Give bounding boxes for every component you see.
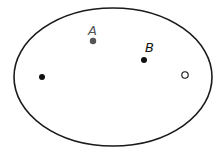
point-b-label: B [145, 40, 154, 55]
point-b [141, 57, 147, 63]
point-a-label: A [87, 23, 97, 38]
ellipse-diagram: A B [0, 0, 224, 156]
point-left [39, 74, 45, 80]
point-a [90, 38, 96, 44]
point-right-open [182, 72, 188, 78]
